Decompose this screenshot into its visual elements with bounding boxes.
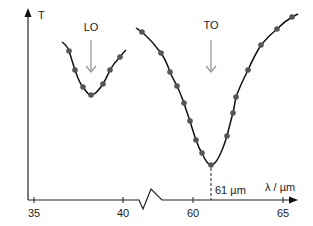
peak-marker: 61 µm bbox=[211, 168, 246, 200]
lo-annotation: LO bbox=[84, 21, 99, 72]
x-tick-40: 40 bbox=[117, 207, 129, 219]
x-axis-label: λ / µm bbox=[265, 181, 295, 193]
x-tick-60: 60 bbox=[187, 207, 199, 219]
series-lo bbox=[62, 42, 126, 98]
lo-label: LO bbox=[84, 21, 99, 33]
x-tick-35: 35 bbox=[28, 207, 40, 219]
y-axis-label: T bbox=[38, 9, 45, 21]
x-axis: 35 40 60 65 λ / µm bbox=[28, 181, 298, 219]
x-axis-arrow-icon bbox=[289, 197, 298, 204]
peak-label: 61 µm bbox=[215, 184, 246, 196]
y-axis: T bbox=[25, 8, 46, 200]
x-tick-65: 65 bbox=[277, 207, 289, 219]
to-annotation: TO bbox=[203, 19, 219, 72]
to-label: TO bbox=[203, 19, 219, 31]
chart: T 35 40 60 65 λ / µm LO bbox=[0, 0, 313, 226]
series-to bbox=[136, 14, 298, 168]
y-axis-arrow-icon bbox=[25, 8, 32, 17]
